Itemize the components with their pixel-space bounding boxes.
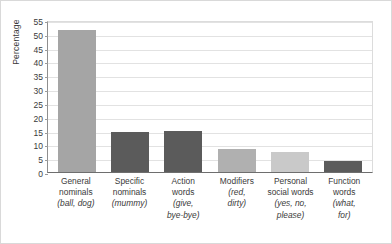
x-label-line: (give, bbox=[156, 198, 210, 209]
x-label-line: Personal bbox=[264, 176, 318, 187]
x-label-modifiers: Modifiers(red,dirty) bbox=[210, 176, 264, 221]
x-label-line: (what, bbox=[317, 198, 371, 209]
x-label-line: (red, bbox=[210, 187, 264, 198]
x-label-line: nominals bbox=[49, 187, 103, 198]
bar-action-words[interactable] bbox=[164, 131, 202, 172]
y-tick-label: 20 bbox=[34, 114, 43, 124]
x-label-line: words bbox=[156, 187, 210, 198]
x-label-line: Action bbox=[156, 176, 210, 187]
y-tick-label: 55 bbox=[34, 17, 43, 27]
y-tick-label: 10 bbox=[34, 141, 43, 151]
x-label-action-words: Actionwords(give,bye-bye) bbox=[156, 176, 210, 221]
x-label-function-words: Functionwords(what,for) bbox=[317, 176, 371, 221]
x-label-general-nominals: Generalnominals(ball, dog) bbox=[49, 176, 103, 221]
y-axis-title: Percentage bbox=[11, 0, 25, 87]
y-tick-label: 45 bbox=[34, 45, 43, 55]
x-label-line: dirty) bbox=[210, 198, 264, 209]
bar-slot bbox=[317, 22, 370, 172]
bar-personal-social-words[interactable] bbox=[271, 152, 309, 172]
x-label-specific-nominals: Specificnominals(mummy) bbox=[103, 176, 157, 221]
x-label-line: Specific bbox=[103, 176, 157, 187]
x-label-line: Function bbox=[317, 176, 371, 187]
x-label-personal-social-words: Personalsocial words(yes, no,please) bbox=[264, 176, 318, 221]
bar-slot bbox=[210, 22, 263, 172]
y-tick-label: 40 bbox=[34, 58, 43, 68]
y-tick-label: 25 bbox=[34, 100, 43, 110]
bar-slot bbox=[263, 22, 316, 172]
x-axis-category-labels: Generalnominals(ball, dog)Specificnomina… bbox=[47, 176, 373, 221]
x-label-line: bye-bye) bbox=[156, 210, 210, 221]
bar-slot bbox=[50, 22, 103, 172]
y-tick-label: 50 bbox=[34, 31, 43, 41]
x-label-line: (yes, no, bbox=[264, 198, 318, 209]
x-label-line: words bbox=[317, 187, 371, 198]
y-tick-label: 0 bbox=[38, 169, 43, 179]
bar-slot bbox=[103, 22, 156, 172]
x-label-line: please) bbox=[264, 210, 318, 221]
bar-series bbox=[48, 22, 372, 172]
bar-slot bbox=[157, 22, 210, 172]
x-label-line: (ball, dog) bbox=[49, 198, 103, 209]
x-label-line: social words bbox=[264, 187, 318, 198]
bar-chart-figure: Percentage 5550454035302520151050 Genera… bbox=[0, 0, 392, 244]
y-tick-label: 35 bbox=[34, 72, 43, 82]
x-label-line: (mummy) bbox=[103, 198, 157, 209]
plot-area: 5550454035302520151050 bbox=[47, 21, 373, 173]
y-tick-mark bbox=[45, 174, 48, 175]
x-label-line: Modifiers bbox=[210, 176, 264, 187]
x-label-line: nominals bbox=[103, 187, 157, 198]
y-tick-label: 5 bbox=[38, 155, 43, 165]
bar-general-nominals[interactable] bbox=[58, 30, 96, 172]
y-tick-label: 30 bbox=[34, 86, 43, 96]
bar-modifiers[interactable] bbox=[218, 149, 256, 172]
y-tick-label: 15 bbox=[34, 128, 43, 138]
bar-specific-nominals[interactable] bbox=[111, 132, 149, 172]
x-label-line: General bbox=[49, 176, 103, 187]
bar-function-words[interactable] bbox=[324, 161, 362, 172]
x-label-line: for) bbox=[317, 210, 371, 221]
